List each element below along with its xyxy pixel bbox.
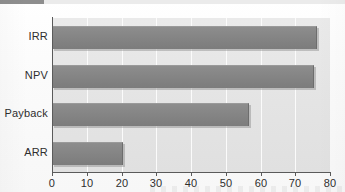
y-category-label-irr: IRR — [0, 30, 48, 42]
x-tick-mark-70 — [295, 173, 296, 176]
x-tick-mark-40 — [191, 173, 192, 176]
y-category-label-payback: Payback — [0, 107, 48, 119]
x-tick-label-10: 10 — [75, 177, 99, 189]
plot-area — [52, 18, 330, 172]
y-axis-category-labels: IRRNPVPaybackARR — [0, 0, 48, 192]
bar-arr — [52, 142, 123, 165]
y-category-label-npv: NPV — [0, 69, 48, 81]
scan-bleedthrough — [150, 186, 345, 192]
y-category-label-arr: ARR — [0, 146, 48, 158]
x-tick-mark-20 — [122, 173, 123, 176]
x-tick-mark-50 — [226, 173, 227, 176]
y-axis-line — [52, 17, 53, 173]
x-tick-label-20: 20 — [110, 177, 134, 189]
x-tick-mark-10 — [87, 173, 88, 176]
x-tick-mark-60 — [261, 173, 262, 176]
x-tick-mark-80 — [330, 173, 331, 176]
bar-payback — [52, 103, 249, 126]
x-tick-mark-30 — [156, 173, 157, 176]
bar-irr — [52, 26, 317, 49]
bar-npv — [52, 65, 314, 88]
bar-chart: 01020304050607080 IRRNPVPaybackARR — [0, 0, 345, 192]
x-tick-mark-0 — [52, 173, 53, 176]
